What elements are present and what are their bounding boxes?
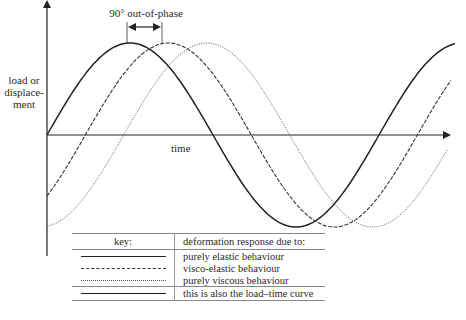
key-row: purely elastic behaviour [72,250,325,263]
phase-bracket [127,22,162,44]
key-row: this is also the load–time curve [72,287,325,301]
key-label: visco-elastic behaviour [175,262,326,274]
key-label: this is also the load–time curve [175,287,326,301]
solid-line-swatch [81,293,166,294]
y-axis-label: load or displace- ment [2,74,46,110]
key-row: purely viscous behaviour [72,274,325,287]
dotted-line-swatch [81,280,166,281]
solid-line-swatch [81,256,166,257]
x-axis [47,131,451,139]
y-axis [43,0,51,256]
key-header: key: [72,234,175,250]
x-axis-arrow-icon [443,131,451,139]
key-label: purely elastic behaviour [175,250,326,263]
response-header: deformation response due to: [175,234,326,250]
key-row: visco-elastic behaviour [72,262,325,274]
dashed-line-swatch [81,268,166,269]
key-label: purely viscous behaviour [175,274,326,287]
x-axis-label: time [171,142,191,154]
phase-annotation: 90° out-of-phase [100,7,192,19]
key-table: key: deformation response due to: purely… [72,233,325,301]
arrow-left-icon [128,23,136,31]
arrow-right-icon [153,23,161,31]
key-header-row: key: deformation response due to: [72,234,325,250]
y-axis-arrow-icon [43,0,51,8]
